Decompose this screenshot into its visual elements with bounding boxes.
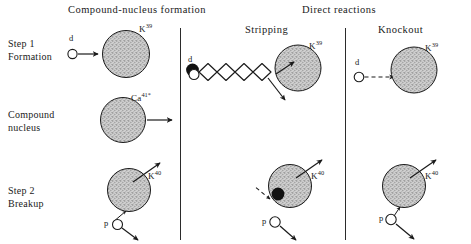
nuclear-reaction-diagram: Compound-nucleus formation Direct reacti… (0, 0, 471, 244)
dashed-transfer-arrow (254, 186, 270, 199)
particle-label-p: p (104, 219, 108, 228)
compound-nucleus-group (101, 98, 173, 143)
particle-label-d: d (69, 34, 73, 43)
captured-neutron-icon (272, 188, 285, 201)
stripping-wavy-path (199, 64, 271, 81)
particle-label-d: d (355, 58, 359, 67)
proton-exit-arrow (396, 224, 414, 239)
target-nucleus-k39-icon (275, 45, 321, 91)
deuteron-particle-icon (68, 49, 77, 58)
nucleus-label-k40: K40 (425, 170, 438, 182)
residual-nucleus-k40-icon (269, 165, 312, 208)
proton-in-deuteron-icon (189, 70, 199, 80)
stripping-step1-group (186, 45, 321, 100)
nucleus-label-k39: K39 (425, 42, 438, 54)
knockout-step1-group (354, 47, 437, 93)
nucleus-label-k39: K39 (139, 23, 152, 35)
nucleus-label-k40: K40 (148, 170, 161, 182)
target-nucleus-k39-icon (391, 47, 437, 93)
particle-label-d: d (188, 55, 192, 64)
proton-particle-icon (113, 220, 123, 230)
nucleus-label-k40: K40 (311, 170, 324, 182)
proton-particle-icon (386, 214, 396, 224)
compound-step1-group (68, 31, 150, 78)
proton-exit-arrow (122, 228, 138, 240)
emission-arrow (394, 207, 400, 216)
target-nucleus-k39-icon (103, 31, 150, 78)
particle-label-p: p (379, 214, 383, 223)
proton-particle-icon (270, 217, 280, 227)
compound-nucleus-ca41-icon (101, 98, 146, 143)
nucleus-label-ca41: Ca41* (131, 92, 151, 104)
residual-nucleus-k40-icon (383, 165, 426, 208)
particle-label-p: p (262, 217, 266, 226)
proton-exit-arrow (280, 226, 296, 240)
nucleus-label-k39: K39 (309, 40, 322, 52)
deuteron-particle-icon (354, 72, 364, 82)
